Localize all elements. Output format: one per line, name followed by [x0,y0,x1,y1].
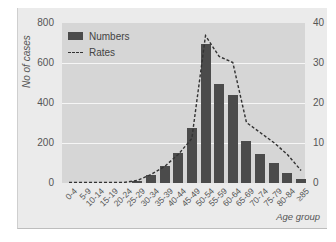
y2-tick-label: 0 [313,178,319,188]
y-tick-label: 600 [24,58,54,68]
y2-tick-label: 40 [313,18,324,28]
y2-tick-label: 30 [313,58,324,68]
dashed-line-icon [68,52,83,53]
bar-swatch-icon [68,32,83,40]
y2-tick-label: 20 [313,98,324,108]
y-tick-label: 800 [24,18,54,28]
legend-label-rates: Rates [89,47,115,58]
y-tick-label: 0 [24,178,54,188]
legend-label-numbers: Numbers [89,31,130,42]
y-tick-label: 200 [24,138,54,148]
legend: Numbers Rates [68,28,130,60]
legend-item-rates: Rates [68,44,130,60]
y-tick-label: 400 [24,98,54,108]
y2-tick-label: 10 [313,138,324,148]
legend-item-numbers: Numbers [68,28,130,44]
x-axis-label: Age group [276,211,320,222]
